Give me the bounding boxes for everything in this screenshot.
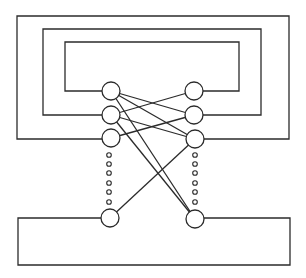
- ellipsis-dot-right: [193, 162, 198, 167]
- network-diagram: [0, 0, 306, 278]
- edge-l2-r4: [111, 115, 195, 219]
- node-l1: [102, 82, 120, 100]
- ellipsis-dot-right: [193, 190, 198, 195]
- diagram-svg: [0, 0, 306, 278]
- edge-l4-r3: [110, 139, 195, 218]
- node-r3: [186, 130, 204, 148]
- edge-l1-r4: [111, 91, 195, 219]
- node-r4: [186, 210, 204, 228]
- node-l3: [102, 129, 120, 147]
- node-r1: [185, 82, 203, 100]
- loop-inner: [65, 42, 239, 91]
- ellipsis-dot-right: [193, 171, 198, 176]
- ellipsis-dot-left: [107, 171, 112, 176]
- node-r2: [185, 106, 203, 124]
- node-l2: [102, 106, 120, 124]
- loop-outer: [17, 16, 289, 139]
- ellipsis-dot-left: [107, 153, 112, 158]
- edge-l1-r3: [111, 91, 195, 139]
- ellipsis-dot-right: [193, 200, 198, 205]
- loop-bottom: [18, 218, 290, 265]
- loops-layer: [17, 16, 290, 265]
- ellipsis-dot-right: [193, 181, 198, 186]
- ellipsis-dot-left: [107, 181, 112, 186]
- ellipsis-dot-left: [107, 162, 112, 167]
- edges-layer: [110, 91, 195, 219]
- ellipsis-dot-left: [107, 200, 112, 205]
- node-l4: [101, 209, 119, 227]
- ellipsis-dot-right: [193, 153, 198, 158]
- ellipsis-dot-left: [107, 190, 112, 195]
